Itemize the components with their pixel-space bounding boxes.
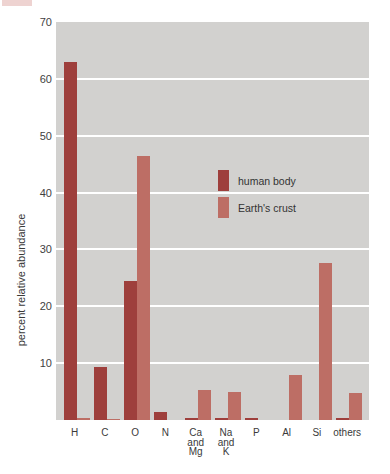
x-label-others: others <box>325 428 369 438</box>
bar-human-body-H <box>64 62 77 420</box>
bar-human-body-Na-and-K <box>215 418 228 420</box>
bar-human-body-others <box>336 418 349 420</box>
page-corner-accent <box>2 0 32 6</box>
bar-human-body-N <box>154 412 167 420</box>
y-tick-label-50: 50 <box>18 130 52 142</box>
y-tick-label-30: 30 <box>18 243 52 255</box>
bar-earths-crust-Al <box>289 375 302 420</box>
legend-swatch-human-body <box>218 170 229 191</box>
bar-human-body-O <box>124 281 137 420</box>
bar-earths-crust-others <box>349 393 362 420</box>
legend-swatch-earths-crust <box>218 197 229 218</box>
bar-earths-crust-C <box>107 419 120 420</box>
legend-label-earths-crust: Earth's crust <box>238 202 296 214</box>
y-tick-label-20: 20 <box>18 300 52 312</box>
legend-label-human-body: human body <box>238 175 296 187</box>
bar-human-body-C <box>94 367 107 420</box>
y-tick-label-40: 40 <box>18 187 52 199</box>
gridline-30 <box>56 248 369 250</box>
figure-page: { "page": { "corner_accent_color": "#eed… <box>0 0 390 474</box>
plot-area <box>56 22 369 420</box>
y-axis-title: percent relative abundance <box>15 214 27 347</box>
gridline-50 <box>56 135 369 137</box>
gridline-40 <box>56 192 369 194</box>
bar-earths-crust-Na-and-K <box>228 392 241 420</box>
bar-human-body-Ca-and-Mg <box>185 418 198 420</box>
legend-item-human-body: human body <box>218 170 296 191</box>
gridline-60 <box>56 78 369 80</box>
y-tick-label-60: 60 <box>18 73 52 85</box>
bar-earths-crust-H <box>77 418 90 420</box>
legend-item-earths-crust: Earth's crust <box>218 197 296 218</box>
bar-earths-crust-Si <box>319 263 332 420</box>
y-tick-label-10: 10 <box>18 357 52 369</box>
bar-earths-crust-O <box>137 156 150 420</box>
bar-human-body-P <box>245 418 258 420</box>
bar-earths-crust-Ca-and-Mg <box>198 390 211 420</box>
y-tick-label-70: 70 <box>18 16 52 28</box>
